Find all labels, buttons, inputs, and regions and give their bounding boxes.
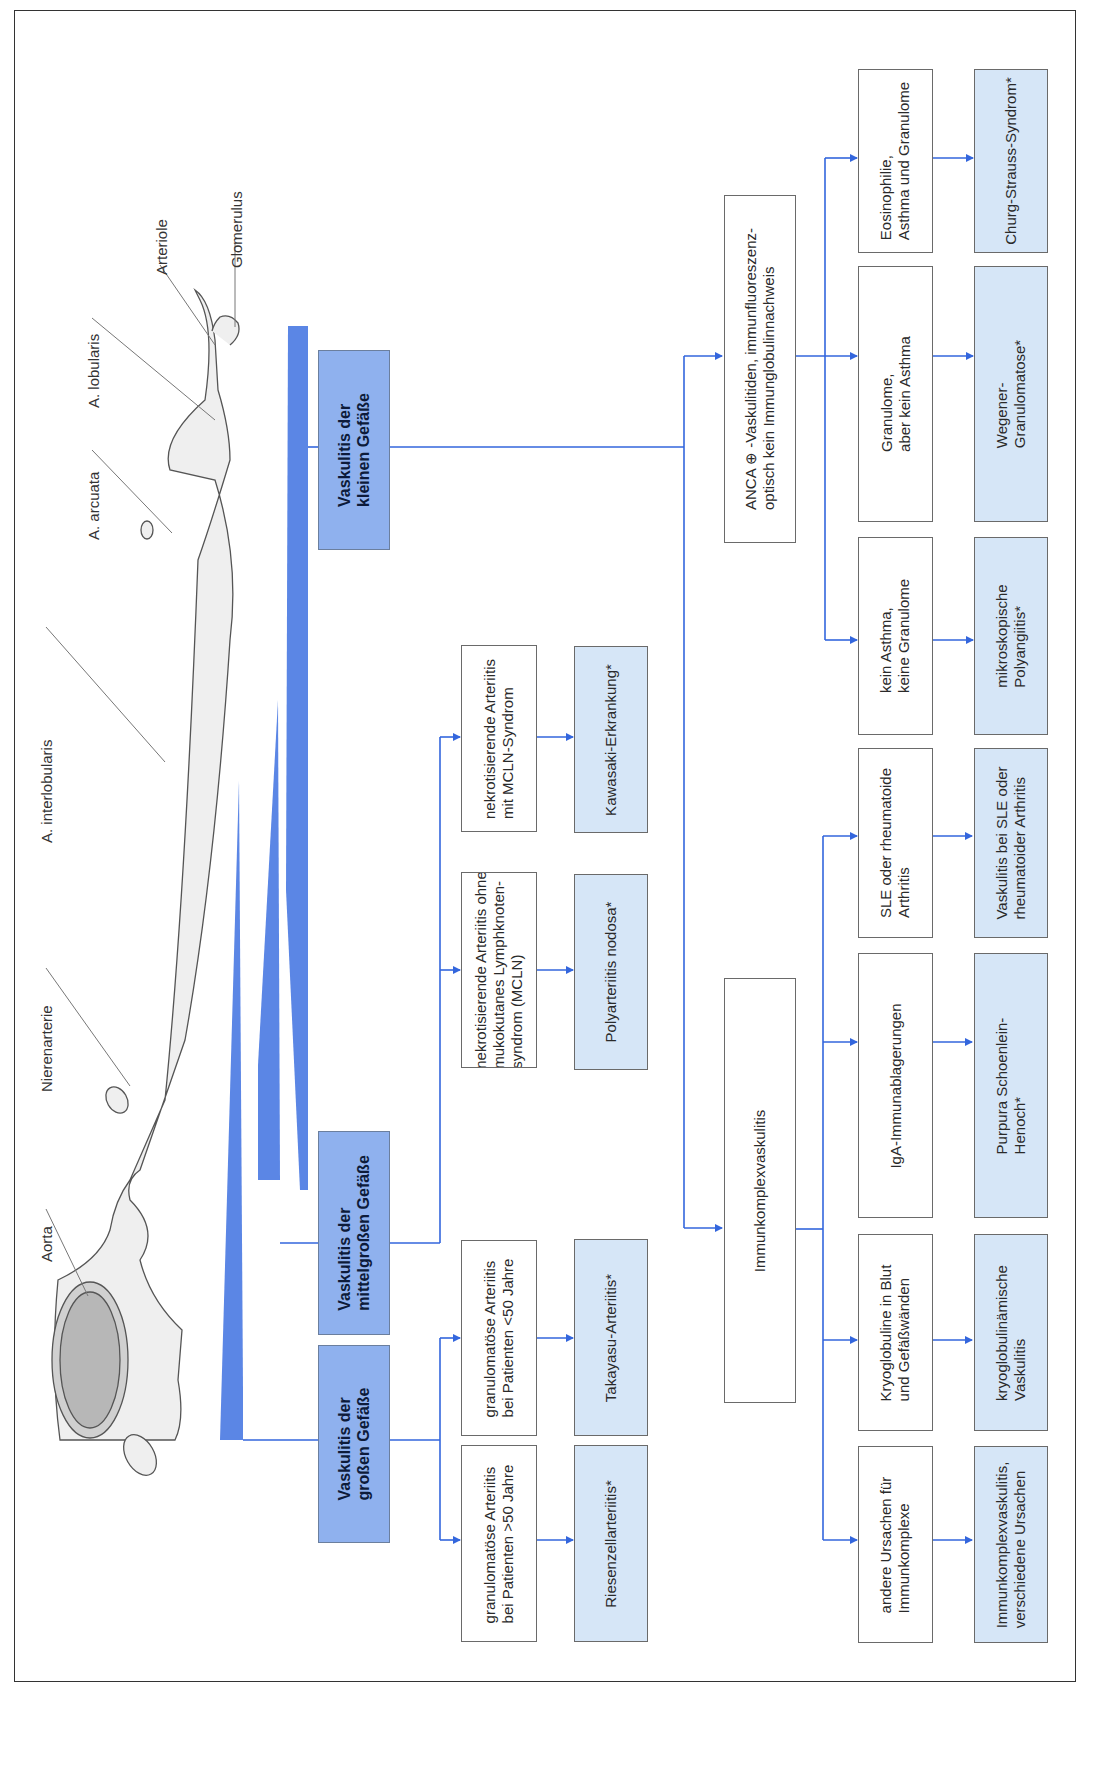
criteria-gca: granulomatöse Arteriitis bei Patienten >… (461, 1445, 537, 1642)
disease-pan-text: Polyarteriitis nodosa* (602, 902, 620, 1043)
category-small-label: Vaskulitis der kleinen Gefäße (335, 393, 373, 507)
disease-immunkomplexvaskulitis: Immunkomplexvaskulitis, verschiedene Urs… (974, 1446, 1048, 1643)
disease-sle-text: Vaskulitis bei SLE oder rheumatoider Art… (993, 766, 1029, 919)
disease-kawasaki: Kawasaki-Erkrankung* (574, 646, 648, 833)
criteria-kryoglobuline: Kryoglobuline in Blut und Gefäßwänden (858, 1234, 933, 1431)
label-glomerulus: Glomerulus (228, 191, 245, 268)
disease-css-text: Churg-Strauss-Syndrom* (1002, 77, 1020, 245)
category-small-vessels: Vaskulitis der kleinen Gefäße (318, 350, 390, 550)
label-interlobularis: A. interlobularis (38, 740, 55, 843)
criteria-takayasu-text: granulomatöse Arteriitis bei Patienten <… (481, 1259, 517, 1418)
label-arcuata: A. arcuata (85, 472, 102, 540)
disease-wegener-text: Wegener- Granulomatose* (993, 340, 1029, 448)
disease-riesenzellarteriitis: Riesenzellarteriitis* (574, 1445, 648, 1642)
disease-churg-strauss: Churg-Strauss-Syndrom* (974, 69, 1048, 253)
criteria-css-text: Eosinophilie, Asthma und Granulome (878, 82, 914, 240)
disease-iga-text: Purpura Schoenlein- Henoch* (993, 1017, 1029, 1154)
criteria-immunkomplex: Immunkomplexvaskulitis (724, 978, 796, 1403)
vessel-size-wedges (220, 326, 308, 1440)
category-large-vessels: Vaskulitis der großen Gefäße (318, 1345, 390, 1543)
disease-takayasu-text: Takayasu-Arteriitis* (602, 1273, 620, 1401)
criteria-iga: IgA-Immunablagerungen (858, 953, 933, 1218)
disease-kawasaki-text: Kawasaki-Erkrankung* (602, 664, 620, 816)
criteria-sle: SLE oder rheumatoide Arthritis (858, 748, 933, 938)
label-aorta: Aorta (38, 1226, 55, 1262)
renal-artery-illustration (52, 290, 239, 1481)
disease-andere-text: Immunkomplexvaskulitis, verschiedene Urs… (993, 1461, 1029, 1628)
category-large-label: Vaskulitis der großen Gefäße (335, 1388, 373, 1501)
disease-mpa-text: mikroskopische Polyangiitis* (993, 584, 1029, 687)
label-nierenarterie: Nierenarterie (38, 1005, 55, 1092)
label-lobularis: A. lobularis (85, 334, 102, 408)
criteria-andere-text: andere Ursachen für Immunkomplexe (878, 1476, 914, 1613)
disease-vaskulitis-sle-ra: Vaskulitis bei SLE oder rheumatoider Art… (974, 748, 1048, 938)
criteria-pan-text: nekrotisierende Arteriitis ohne mukokuta… (472, 872, 526, 1068)
criteria-immunkomplex-text: Immunkomplexvaskulitis (751, 1109, 769, 1272)
criteria-churg-strauss: Eosinophilie, Asthma und Granulome (858, 69, 933, 253)
category-medium-label: Vaskulitis der mittelgroßen Gefäße (335, 1155, 373, 1311)
disease-mikroskopische-polyangiitis: mikroskopische Polyangiitis* (974, 537, 1048, 735)
criteria-mpa-text: kein Asthma, keine Granulome (878, 579, 914, 693)
criteria-pan: nekrotisierende Arteriitis ohne mukokuta… (461, 872, 537, 1068)
disease-purpura-schoenlein-henoch: Purpura Schoenlein- Henoch* (974, 953, 1048, 1218)
criteria-wegener-text: Granulome, aber kein Asthma (878, 336, 914, 452)
criteria-kawasaki-text: nekrotisierende Arteriitis mit MCLN-Synd… (481, 658, 517, 818)
criteria-sle-text: SLE oder rheumatoide Arthritis (878, 768, 914, 918)
label-arteriole: Arteriole (153, 219, 170, 275)
disease-kryoglobulinaemische-vaskulitis: kryoglobulinämische Vaskulitis (974, 1234, 1048, 1431)
criteria-anca-text: ANCA ⊕ -Vaskulitiden, immunfluoreszenz- … (742, 228, 778, 510)
disease-takayasu: Takayasu-Arteriitis* (574, 1239, 648, 1436)
criteria-anca: ANCA ⊕ -Vaskulitiden, immunfluoreszenz- … (724, 195, 796, 543)
criteria-iga-text: IgA-Immunablagerungen (887, 1003, 905, 1168)
criteria-takayasu: granulomatöse Arteriitis bei Patienten <… (461, 1240, 537, 1436)
criteria-wegener: Granulome, aber kein Asthma (858, 266, 933, 522)
criteria-andere-ursachen: andere Ursachen für Immunkomplexe (858, 1446, 933, 1643)
criteria-kawasaki: nekrotisierende Arteriitis mit MCLN-Synd… (461, 645, 537, 832)
disease-kryo-text: kryoglobulinämische Vaskulitis (993, 1265, 1029, 1401)
criteria-gca-text: granulomatöse Arteriitis bei Patienten >… (481, 1464, 517, 1623)
disease-wegener-granulomatose: Wegener- Granulomatose* (974, 266, 1048, 522)
disease-gca-text: Riesenzellarteriitis* (602, 1480, 620, 1608)
criteria-mpa: kein Asthma, keine Granulome (858, 537, 933, 735)
category-medium-vessels: Vaskulitis der mittelgroßen Gefäße (318, 1131, 390, 1335)
disease-polyarteriitis-nodosa: Polyarteriitis nodosa* (574, 874, 648, 1070)
criteria-kryo-text: Kryoglobuline in Blut und Gefäßwänden (878, 1264, 914, 1401)
